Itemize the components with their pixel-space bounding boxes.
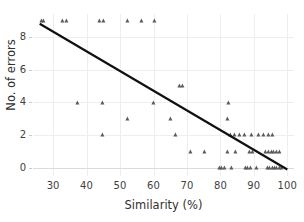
x-tick-label-80: 80	[205, 180, 235, 191]
y-tick-label-0: 0	[12, 162, 26, 173]
trendline	[33, 14, 294, 176]
x-tick-label-50: 50	[105, 180, 135, 191]
x-tick-label-100: 100	[272, 180, 302, 191]
trendline-segment	[40, 24, 288, 170]
plot-area	[33, 14, 294, 176]
x-tick-label-70: 70	[172, 180, 202, 191]
y-tick-mark-2	[29, 135, 32, 136]
x-tick-label-40: 40	[72, 180, 102, 191]
y-axis-title: No. of errors	[4, 15, 18, 135]
x-tick-label-90: 90	[239, 180, 269, 191]
x-tick-label-60: 60	[139, 180, 169, 191]
y-tick-mark-6	[29, 70, 32, 71]
y-tick-mark-4	[29, 102, 32, 103]
scatter-chart: 30405060708090100 02468 Similarity (%) N…	[0, 0, 304, 222]
y-tick-mark-8	[29, 37, 32, 38]
x-axis-title: Similarity (%)	[33, 198, 294, 212]
y-tick-mark-0	[29, 168, 32, 169]
x-tick-label-30: 30	[38, 180, 68, 191]
